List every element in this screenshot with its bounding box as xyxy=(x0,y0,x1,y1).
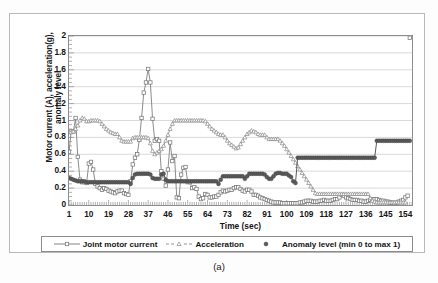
y-tick-label: 1.2 xyxy=(42,99,66,107)
y-tick-label: 0.6 xyxy=(42,149,66,157)
chart-canvas xyxy=(69,36,412,205)
y-tick-label: 1.4 xyxy=(42,82,66,90)
figure-panel-a: Motor current (A), acceleration(g), anom… xyxy=(0,0,438,283)
y-tick-label: 0 xyxy=(42,200,66,208)
y-tick-label: 0.8 xyxy=(42,132,66,140)
legend-marker-square-open-icon xyxy=(54,239,80,249)
chart-legend: Joint motor currentAccelerationAnomaly l… xyxy=(41,236,413,252)
chart-frame: Motor current (A), acceleration(g), anom… xyxy=(9,13,425,253)
legend-label: Joint motor current xyxy=(83,240,158,249)
legend-marker-triangle-open-icon xyxy=(166,239,192,249)
legend-label: Anomaly level (min 0 to max 1) xyxy=(282,240,400,249)
x-axis-tick-labels: 1101928374655647382911001091181271361451… xyxy=(68,209,413,221)
x-tick-label: 154 xyxy=(392,209,418,219)
y-tick-label: 2 xyxy=(42,31,66,39)
y-tick-label: 1.6 xyxy=(42,65,66,73)
y-axis-tick-labels: 21.81.61.41.210.80.60.40.20 xyxy=(38,35,66,206)
plot-area xyxy=(68,35,413,206)
legend-entry-2[interactable]: Anomaly level (min 0 to max 1) xyxy=(253,239,400,249)
y-tick-label: 1.8 xyxy=(42,48,66,56)
legend-entry-0[interactable]: Joint motor current xyxy=(54,239,158,249)
y-tick-label: 0.2 xyxy=(42,183,66,191)
y-tick-label: 0.4 xyxy=(42,166,66,174)
figure-caption: (a) xyxy=(0,261,438,272)
y-tick-label: 1 xyxy=(42,116,66,124)
x-axis-title: Time (sec) xyxy=(68,221,413,231)
legend-marker-circle-filled-icon xyxy=(253,239,279,249)
legend-label: Acceleration xyxy=(195,240,244,249)
legend-entry-1[interactable]: Acceleration xyxy=(166,239,244,249)
